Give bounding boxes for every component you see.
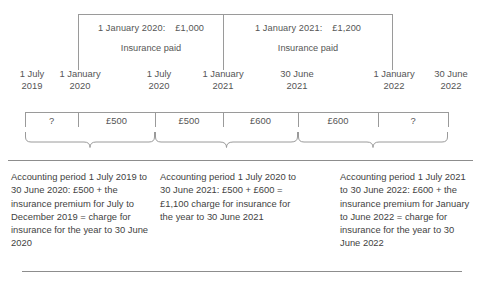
- payment-box-2020-amount: £1,000: [175, 23, 204, 33]
- top-divider-rule: [8, 160, 473, 161]
- timeline-date-3: 1 July 2020: [129, 68, 189, 91]
- timeline-date-5-year: 2021: [266, 80, 328, 92]
- amounts-bar-top-line: [25, 112, 448, 113]
- timeline-date-2: 1 January 2020: [48, 68, 112, 91]
- accounting-period-text-2: Accounting period 1 July 2020 to 30 June…: [160, 170, 300, 223]
- payment-box-2021-date: 1 January 2021:: [255, 23, 322, 33]
- timeline-date-4-year: 2021: [191, 80, 255, 92]
- payment-box-2021: 1 January 2021:£1,200 Insurance paid: [223, 14, 393, 70]
- timeline-date-5-day: 30 June: [266, 68, 328, 80]
- segment-label-2: £500: [78, 115, 155, 126]
- period-brace-3: [298, 132, 448, 148]
- period-brace-1: [25, 132, 155, 148]
- timeline-date-6-year: 2022: [362, 80, 426, 92]
- insurance-timeline-diagram: 1 January 2020:£1,000 Insurance paid 1 J…: [0, 0, 482, 287]
- timeline-date-3-day: 1 July: [129, 68, 189, 80]
- segment-label-4: £600: [223, 115, 298, 126]
- payment-box-2021-header: 1 January 2021:£1,200: [224, 23, 392, 33]
- timeline-date-7-day: 30 June: [422, 68, 480, 80]
- period-brace-2: [155, 132, 298, 148]
- bottom-divider-rule: [22, 271, 462, 272]
- timeline-date-2-day: 1 January: [48, 68, 112, 80]
- timeline-date-3-year: 2020: [129, 80, 189, 92]
- payment-box-2020-caption: Insurance paid: [79, 43, 223, 53]
- amounts-bar-tick-end: [448, 112, 449, 127]
- segment-label-6: ?: [378, 115, 448, 126]
- segment-label-3: £500: [155, 115, 223, 126]
- timeline-date-4: 1 January 2021: [191, 68, 255, 91]
- segment-label-5: £600: [298, 115, 378, 126]
- payment-box-2020: 1 January 2020:£1,000 Insurance paid: [78, 14, 223, 70]
- payment-box-2020-date: 1 January 2020:: [98, 23, 165, 33]
- timeline-date-4-day: 1 January: [191, 68, 255, 80]
- timeline-date-2-year: 2020: [48, 80, 112, 92]
- timeline-date-5: 30 June 2021: [266, 68, 328, 91]
- timeline-date-7-year: 2022: [422, 80, 480, 92]
- timeline-date-7: 30 June 2022: [422, 68, 480, 91]
- timeline-date-6-day: 1 January: [362, 68, 426, 80]
- payment-box-2021-amount: £1,200: [332, 23, 361, 33]
- payment-box-2021-caption: Insurance paid: [224, 43, 392, 53]
- segment-label-1: ?: [25, 115, 78, 126]
- accounting-period-text-3: Accounting period 1 July 2021 to 30 June…: [340, 170, 471, 250]
- accounting-period-text-1: Accounting period 1 July 2019 to 30 June…: [11, 170, 150, 250]
- payment-box-2020-header: 1 January 2020:£1,000: [79, 23, 223, 33]
- timeline-date-6: 1 January 2022: [362, 68, 426, 91]
